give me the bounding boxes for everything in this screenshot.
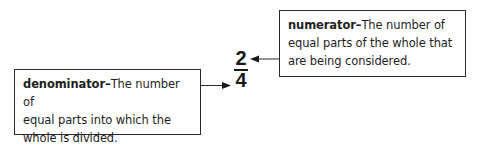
numerator-arrow-icon (250, 56, 279, 63)
connector-arrows (0, 0, 481, 145)
denominator-arrow-icon (201, 82, 231, 89)
